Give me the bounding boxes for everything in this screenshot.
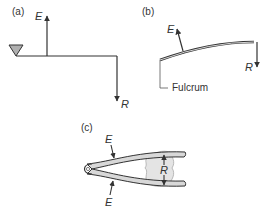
fulcrum-triangle-icon xyxy=(9,45,23,56)
resistance-label: R xyxy=(121,98,129,110)
curved-lever-bar xyxy=(160,42,254,60)
resistance-label: R xyxy=(160,164,168,176)
panel-c-label: (c) xyxy=(81,122,93,133)
effort-label: E xyxy=(167,23,175,35)
panel-b-label: (b) xyxy=(142,6,154,17)
effort-arrow-top xyxy=(111,145,114,158)
panel-b: (b) E R Fulcrum xyxy=(142,6,257,93)
effort-label-top: E xyxy=(105,133,113,145)
resistance-label: R xyxy=(245,61,253,73)
effort-label-bottom: E xyxy=(105,196,113,208)
fulcrum-label: Fulcrum xyxy=(172,82,208,93)
effort-label: E xyxy=(35,10,43,22)
panel-a: (a) E R xyxy=(9,6,129,110)
panel-c: (c) E E R xyxy=(81,122,186,208)
fulcrum-leader-line xyxy=(160,60,168,88)
panel-a-label: (a) xyxy=(12,6,24,17)
lever-diagram: (a) E R (b) E R Fulcrum (c) E E R xyxy=(0,0,269,219)
effort-arrow-bottom xyxy=(110,181,113,195)
effort-arrow xyxy=(177,29,183,51)
